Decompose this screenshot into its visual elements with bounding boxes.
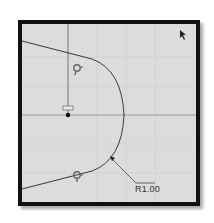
sketch-drawing xyxy=(0,0,214,223)
origin-point[interactable] xyxy=(66,113,70,117)
origin-label-box xyxy=(63,106,73,110)
grid-lines xyxy=(22,24,196,202)
arrow-cursor-icon xyxy=(180,30,186,40)
tangent-constraint-icon[interactable] xyxy=(74,65,83,75)
radius-dimension-label[interactable]: R1.00 xyxy=(135,184,160,194)
radius-dimension[interactable] xyxy=(110,156,155,183)
